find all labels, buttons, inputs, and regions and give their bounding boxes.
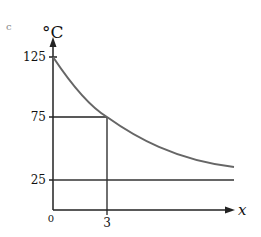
chart: c °C x 125 75 25 0 3	[0, 0, 261, 237]
x-tick-3: 3	[103, 216, 111, 230]
y-tick-75: 75	[31, 110, 46, 124]
y-tick-125: 125	[23, 50, 46, 64]
panel-label: c	[6, 21, 12, 32]
x-tick-0: 0	[48, 213, 54, 224]
x-axis-arrow-icon	[225, 207, 235, 214]
temperature-curve	[53, 57, 234, 167]
x-axis-label: x	[238, 201, 247, 219]
y-tick-25: 25	[31, 173, 46, 187]
